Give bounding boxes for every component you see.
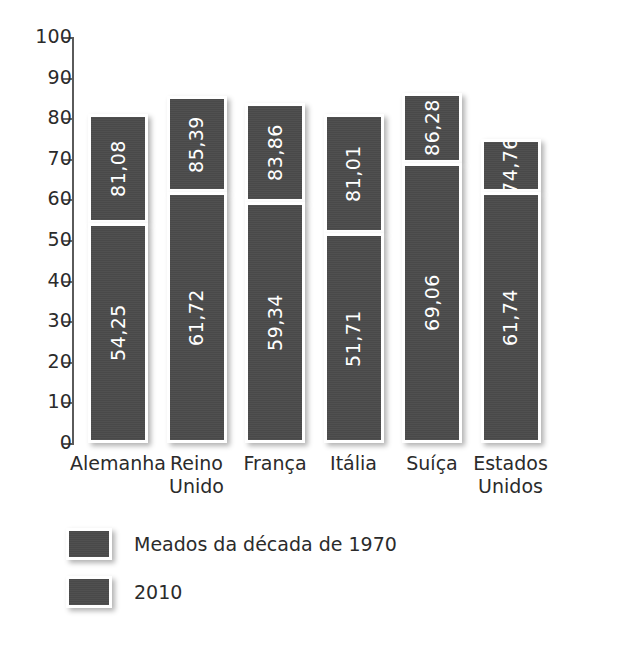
y-tick-label: 70 <box>28 149 72 168</box>
bar-segment-1970s[interactable]: 61,72 <box>167 192 227 443</box>
legend-item[interactable]: 2010 <box>66 576 586 624</box>
y-axis-line <box>72 37 74 445</box>
bar-segment-2010[interactable]: 81,08 <box>88 114 148 223</box>
category-label-line: Unidos <box>450 475 572 498</box>
bar-value-label: 61,72 <box>187 289 206 346</box>
legend-swatch <box>66 528 112 560</box>
bar-value-label: 81,08 <box>109 140 128 197</box>
y-tick-label: 20 <box>28 352 72 371</box>
y-tick-label: 40 <box>28 271 72 290</box>
bar-segment-1970s[interactable]: 69,06 <box>402 163 462 443</box>
bar-segment-2010[interactable]: 83,86 <box>245 103 305 203</box>
y-tick-label: 100 <box>28 27 72 46</box>
bar-segment-2010[interactable]: 85,39 <box>167 96 227 192</box>
bar-segment-1970s[interactable]: 51,71 <box>324 233 384 443</box>
bar-value-label: 54,25 <box>109 304 128 361</box>
bar-value-label: 69,06 <box>423 274 442 331</box>
category-label-line: Estados <box>450 452 572 475</box>
bar-value-label: 86,28 <box>423 99 442 156</box>
bar-value-label: 85,39 <box>187 116 206 173</box>
legend-swatch <box>66 576 112 608</box>
legend-label: 2010 <box>134 580 182 604</box>
bar-segment-1970s[interactable]: 54,25 <box>88 223 148 443</box>
bar-segment-1970s[interactable]: 61,74 <box>481 192 541 443</box>
legend-label: Meados da década de 1970 <box>134 532 397 556</box>
bar-value-label: 61,74 <box>501 289 520 346</box>
y-tick-label: 0 <box>28 433 72 452</box>
bar-chart: 1009080706050403020100 81,0854,2585,3961… <box>0 0 639 655</box>
bar-segment-1970s[interactable]: 59,34 <box>245 202 305 443</box>
bar-value-label: 81,01 <box>344 145 363 202</box>
y-tick-label: 90 <box>28 68 72 87</box>
bar-segment-2010[interactable]: 81,01 <box>324 114 384 233</box>
y-tick-label: 80 <box>28 108 72 127</box>
y-tick-label: 10 <box>28 392 72 411</box>
y-tick-label: 50 <box>28 230 72 249</box>
y-tick-label: 30 <box>28 311 72 330</box>
y-tick-label: 60 <box>28 189 72 208</box>
bar-segment-2010[interactable]: 74,76 <box>481 139 541 192</box>
bar-value-label: 59,34 <box>266 294 285 351</box>
chart-legend: Meados da década de 19702010 <box>66 528 586 624</box>
bar-value-label: 74,76 <box>501 139 520 192</box>
bar-value-label: 83,86 <box>266 124 285 181</box>
bar-value-label: 51,71 <box>344 310 363 367</box>
category-label: EstadosUnidos <box>450 452 572 498</box>
bar-segment-2010[interactable]: 86,28 <box>402 93 462 163</box>
legend-item[interactable]: Meados da década de 1970 <box>66 528 586 576</box>
category-label-line: Unido <box>136 475 258 498</box>
